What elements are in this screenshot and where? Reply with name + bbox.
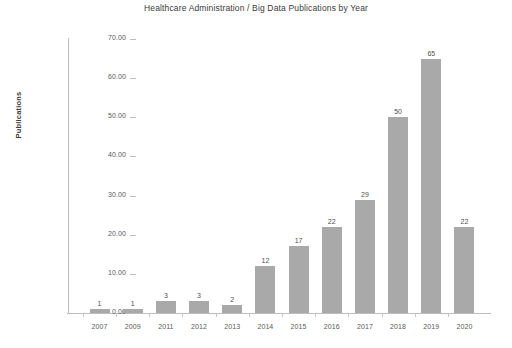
bar xyxy=(355,200,375,314)
bar xyxy=(90,309,110,313)
bar xyxy=(222,305,242,313)
bar-value-label: 1 xyxy=(83,300,116,307)
x-tick-mark xyxy=(415,313,416,317)
bar-value-label: 22 xyxy=(315,218,348,225)
x-tick-mark xyxy=(116,313,117,317)
x-tick-mark xyxy=(83,313,84,317)
bar-category-2016: 222016 xyxy=(315,39,348,313)
x-tick-label: 2009 xyxy=(116,323,149,330)
bar-value-label: 17 xyxy=(282,237,315,244)
x-tick-mark xyxy=(448,313,449,317)
bar xyxy=(322,227,342,313)
bar-value-label: 65 xyxy=(415,50,448,57)
x-tick-mark xyxy=(282,313,283,317)
bar-category-2012: 32012 xyxy=(182,39,215,313)
plot-area: 0.0010.0020.0030.0040.0050.0060.0070.00 … xyxy=(68,39,490,313)
bar-value-label: 1 xyxy=(116,300,149,307)
bar-value-label: 3 xyxy=(182,292,215,299)
x-tick-label: 2014 xyxy=(249,323,282,330)
bar-category-2011: 32011 xyxy=(149,39,182,313)
y-axis-label: Publications xyxy=(14,70,23,160)
bar-value-label: 22 xyxy=(448,218,481,225)
x-tick-label: 2017 xyxy=(348,323,381,330)
bar-category-2015: 172015 xyxy=(282,39,315,313)
bar xyxy=(421,59,441,313)
x-tick-mark xyxy=(182,313,183,317)
bar-category-2013: 22013 xyxy=(216,39,249,313)
x-tick-label: 2019 xyxy=(415,323,448,330)
x-tick-label: 2016 xyxy=(315,323,348,330)
x-tick-mark xyxy=(348,313,349,317)
bar-value-label: 2 xyxy=(216,296,249,303)
x-tick-label: 2011 xyxy=(149,323,182,330)
bar xyxy=(189,301,209,313)
chart-figure: Healthcare Administration / Big Data Pub… xyxy=(0,0,512,348)
bar-category-2009: 12009 xyxy=(116,39,149,313)
x-tick-mark xyxy=(216,313,217,317)
bar-category-2019: 652019 xyxy=(415,39,448,313)
bar-value-label: 12 xyxy=(249,257,282,264)
bar xyxy=(255,266,275,313)
bar-category-2017: 292017 xyxy=(348,39,381,313)
x-tick-label: 2007 xyxy=(83,323,116,330)
x-tick-mark xyxy=(382,313,383,317)
bar-value-label: 29 xyxy=(348,191,381,198)
bar xyxy=(123,309,143,313)
x-tick-label: 2013 xyxy=(216,323,249,330)
chart-title: Healthcare Administration / Big Data Pub… xyxy=(0,3,512,13)
x-tick-label: 2018 xyxy=(382,323,415,330)
bar xyxy=(454,227,474,313)
bar xyxy=(388,117,408,313)
bar-category-2007: 12007 xyxy=(83,39,116,313)
bar-category-2018: 502018 xyxy=(382,39,415,313)
bar-value-label: 3 xyxy=(149,292,182,299)
bar-category-2020: 222020 xyxy=(448,39,481,313)
x-tick-mark xyxy=(249,313,250,317)
y-tick-mark xyxy=(130,313,136,314)
x-tick-mark xyxy=(149,313,150,317)
bar-category-2014: 122014 xyxy=(249,39,282,313)
x-tick-label: 2012 xyxy=(182,323,215,330)
bar xyxy=(289,246,309,313)
x-tick-label: 2020 xyxy=(448,323,481,330)
bar-value-label: 50 xyxy=(382,108,415,115)
x-tick-label: 2015 xyxy=(282,323,315,330)
x-tick-mark xyxy=(315,313,316,317)
bar xyxy=(156,301,176,313)
